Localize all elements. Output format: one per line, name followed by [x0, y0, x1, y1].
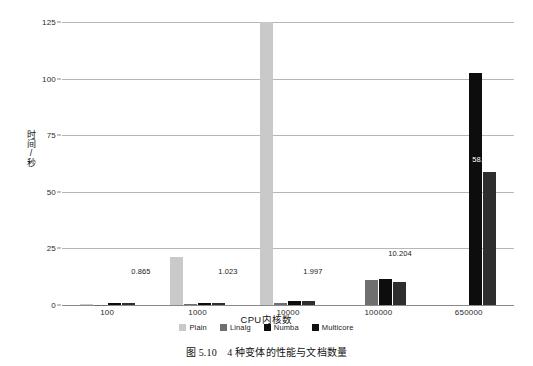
data-label-650000: 58.679 — [472, 155, 496, 164]
ytick-dash-0 — [57, 305, 61, 306]
data-label-100000: 10.204 — [388, 249, 412, 258]
legend-label-multicore: Multicore — [322, 323, 354, 332]
legend-item-numba[interactable]: Numba — [264, 323, 299, 332]
bars-100 — [62, 22, 152, 305]
bar-1000-linalg[interactable] — [184, 304, 197, 305]
figure-container: 时间/秒 125 100 75 50 25 0 — [0, 0, 533, 366]
bar-group-1000 — [152, 22, 242, 305]
bar-10000-plain[interactable] — [260, 22, 273, 305]
chart-legend: Plain Linalg Numba Multicore — [0, 323, 533, 332]
ytick-label-75: 75 — [47, 131, 56, 140]
bar-group-100 — [62, 22, 152, 305]
ytick-dash-50 — [57, 191, 61, 192]
bar-10000-numba[interactable] — [288, 301, 301, 306]
ytick-label-125: 125 — [42, 18, 56, 27]
data-label-10000: 1.997 — [303, 267, 322, 276]
legend-label-linalg: Linalg — [230, 323, 251, 332]
bar-10000-multicore[interactable] — [302, 301, 315, 305]
bar-100000-numba[interactable] — [379, 279, 392, 305]
bar-1000-numba[interactable] — [198, 303, 211, 305]
ytick-dash-100 — [57, 78, 61, 79]
bar-group-650000 — [424, 22, 514, 305]
legend-swatch-linalg-icon — [220, 324, 227, 331]
ytick-label-50: 50 — [47, 187, 56, 196]
bar-100000-linalg[interactable] — [365, 280, 378, 305]
bars-10000 — [243, 22, 333, 305]
legend-swatch-numba-icon — [264, 324, 271, 331]
ytick-dash-25 — [57, 248, 61, 249]
bar-100-multicore[interactable] — [122, 303, 135, 305]
legend-swatch-multicore-icon — [312, 324, 319, 331]
bar-650000-numba[interactable] — [469, 73, 482, 305]
bars-100000 — [333, 22, 423, 305]
bars-1000 — [152, 22, 242, 305]
legend-label-plain: Plain — [189, 323, 206, 332]
bar-100000-multicore[interactable] — [393, 282, 406, 305]
bar-650000-multicore[interactable] — [483, 172, 496, 305]
ytick-label-25: 25 — [47, 244, 56, 253]
plot-area: 125 100 75 50 25 0 — [62, 22, 514, 305]
legend-swatch-plain-icon — [179, 324, 186, 331]
legend-item-plain[interactable]: Plain — [179, 323, 206, 332]
bar-100-plain[interactable] — [80, 304, 93, 305]
legend-item-linalg[interactable]: Linalg — [220, 323, 251, 332]
ytick-dash-125 — [57, 22, 61, 23]
y-axis-title: 时间/秒 — [26, 130, 35, 167]
ytick-label-0: 0 — [51, 301, 56, 310]
figure-caption: 图 5.10 4 种变体的性能与文档数量 — [0, 344, 533, 359]
bars-650000 — [424, 22, 514, 305]
ytick-dash-75 — [57, 135, 61, 136]
bar-group-10000 — [243, 22, 333, 305]
bar-100-numba[interactable] — [108, 303, 121, 305]
bar-group-100000 — [333, 22, 423, 305]
legend-label-numba: Numba — [274, 323, 299, 332]
legend-item-multicore[interactable]: Multicore — [312, 323, 354, 332]
bar-1000-plain[interactable] — [170, 257, 183, 305]
bar-10000-linalg[interactable] — [274, 303, 287, 305]
data-label-100: 0.865 — [131, 267, 150, 276]
gridline-zero-axis: 0 — [62, 305, 514, 306]
data-label-1000: 1.023 — [218, 267, 237, 276]
bar-1000-multicore[interactable] — [212, 303, 225, 305]
ytick-label-100: 100 — [42, 74, 56, 83]
